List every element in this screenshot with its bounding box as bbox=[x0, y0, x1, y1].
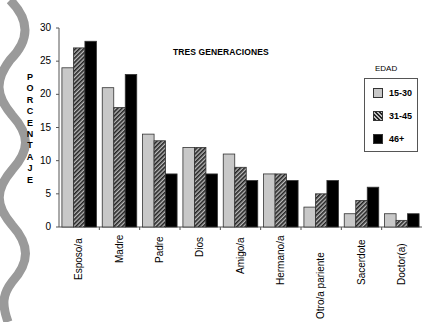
bar-15-30 bbox=[62, 68, 74, 227]
y-tick-label: 0 bbox=[31, 221, 51, 232]
bar-15-30 bbox=[102, 88, 114, 227]
legend-swatch bbox=[373, 111, 383, 121]
legend-label: 46+ bbox=[389, 134, 404, 144]
x-tick-label: Dios bbox=[194, 237, 205, 257]
chart-title: TRES GENERACIONES bbox=[173, 47, 269, 57]
legend-swatch bbox=[373, 88, 383, 98]
y-tick-label: 25 bbox=[31, 55, 51, 66]
bar-31-45 bbox=[275, 174, 287, 227]
legend-swatch bbox=[373, 134, 383, 144]
x-tick-label: Esposo/a bbox=[73, 238, 84, 280]
bar-15-30 bbox=[183, 147, 195, 227]
bar-15-30 bbox=[143, 134, 155, 227]
x-tick-label: Doctor(a) bbox=[396, 244, 407, 286]
bar-46+ bbox=[327, 181, 339, 227]
bar-15-30 bbox=[264, 174, 276, 227]
x-tick-label: Otro/a pariente bbox=[315, 252, 326, 319]
x-tick-label: Madre bbox=[114, 235, 125, 263]
bar-15-30 bbox=[304, 207, 316, 227]
bar-46+ bbox=[408, 214, 420, 227]
x-tick-label: Sacerdote bbox=[356, 240, 367, 286]
legend-item: 15-30 bbox=[373, 87, 412, 99]
bar-31-45 bbox=[114, 108, 126, 227]
x-tick-label: Hermano/a bbox=[275, 236, 286, 285]
y-axis-label: PORCENTAJE bbox=[24, 72, 36, 186]
bar-15-30 bbox=[385, 214, 397, 227]
bar-31-45 bbox=[154, 141, 166, 227]
bar-31-45 bbox=[396, 220, 408, 227]
bar-15-30 bbox=[223, 154, 235, 227]
legend-label: 31-45 bbox=[389, 111, 412, 121]
x-tick-label: Amigo/a bbox=[235, 238, 246, 275]
bar-31-45 bbox=[315, 194, 327, 227]
bar-46+ bbox=[166, 174, 178, 227]
bar-46+ bbox=[287, 181, 299, 227]
bar-31-45 bbox=[235, 167, 247, 227]
y-tick-label: 5 bbox=[31, 188, 51, 199]
bar-46+ bbox=[85, 41, 97, 227]
bar-46+ bbox=[367, 187, 379, 227]
bar-46+ bbox=[206, 174, 218, 227]
bar-31-45 bbox=[73, 48, 85, 227]
bar-31-45 bbox=[356, 200, 368, 227]
legend: 15-3031-4546+ bbox=[364, 78, 418, 152]
legend-item: 46+ bbox=[373, 133, 404, 145]
legend-title: EDAD bbox=[375, 64, 397, 73]
legend-label: 15-30 bbox=[389, 88, 412, 98]
x-tick-label: Padre bbox=[154, 236, 165, 263]
bar-31-45 bbox=[194, 147, 206, 227]
bar-15-30 bbox=[344, 214, 356, 227]
bar-46+ bbox=[125, 74, 137, 227]
y-tick-label: 30 bbox=[31, 22, 51, 33]
bar-46+ bbox=[246, 181, 258, 227]
legend-item: 31-45 bbox=[373, 110, 412, 122]
